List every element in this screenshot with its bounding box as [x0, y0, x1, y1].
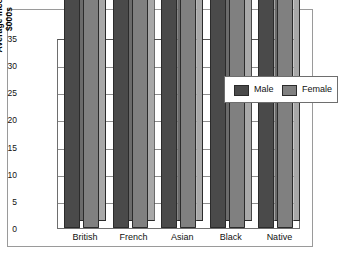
y-axis-tick-label: 5 — [0, 198, 17, 207]
legend-swatch-female — [282, 85, 297, 96]
y-axis-title-line2: $000s — [4, 7, 14, 31]
plot-area: 30 01915 77226 54713 95822 97913 65720 5… — [57, 39, 300, 229]
chart-frame: Average Income $000s 05101520253035 30 0… — [7, 9, 313, 247]
y-axis-tick-label: 25 — [0, 89, 17, 98]
bar — [64, 0, 80, 228]
bar — [161, 0, 177, 228]
legend-label-female: Female — [302, 84, 332, 94]
bar — [132, 0, 148, 228]
bar-side-face — [99, 0, 106, 221]
x-axis-tick-label: Native — [249, 232, 309, 242]
y-axis-tick-label: 0 — [0, 225, 17, 234]
y-axis-tick-label: 35 — [0, 35, 17, 44]
bar-front-face — [83, 0, 99, 228]
bar-front-face — [277, 0, 293, 228]
bar — [229, 0, 245, 228]
bar — [180, 0, 196, 228]
bar-front-face — [210, 0, 226, 228]
bar-front-face — [132, 0, 148, 228]
bar-side-face — [148, 0, 155, 221]
bar — [258, 0, 274, 228]
bar — [210, 0, 226, 228]
bar-side-face — [245, 0, 252, 221]
y-axis-tick-label: 30 — [0, 62, 17, 71]
y-axis-tick-label: 15 — [0, 144, 17, 153]
bar — [277, 0, 293, 228]
bar-front-face — [229, 0, 245, 228]
y-axis-tick-label: 10 — [0, 171, 17, 180]
bar-front-face — [64, 0, 80, 228]
bar-front-face — [258, 0, 274, 228]
legend: Male Female — [224, 76, 338, 103]
bar-side-face — [293, 0, 300, 221]
bar-front-face — [180, 0, 196, 228]
bar-front-face — [113, 0, 129, 228]
bar — [113, 0, 129, 228]
bar-side-face — [196, 0, 203, 221]
bar-front-face — [161, 0, 177, 228]
legend-label-male: Male — [254, 84, 274, 94]
bar — [83, 0, 99, 228]
y-axis-tick-label: 20 — [0, 116, 17, 125]
legend-swatch-male — [234, 85, 249, 96]
